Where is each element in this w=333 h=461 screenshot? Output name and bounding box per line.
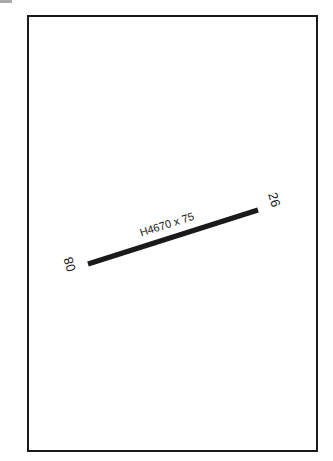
- runway-end-26: 26: [265, 191, 284, 209]
- runway-end-08: 08: [60, 255, 79, 273]
- runway-diagram: H4670 x 75 08 26: [0, 0, 333, 461]
